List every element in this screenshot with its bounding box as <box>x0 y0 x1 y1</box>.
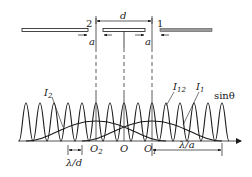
a-dimension-left: a <box>78 35 112 47</box>
O2-label: O2 <box>90 143 103 156</box>
lambda-over-a-dimension: λ/a <box>152 139 222 156</box>
center-screen-slab <box>103 29 145 32</box>
I12-label: I12 <box>172 81 186 94</box>
slit-2-label: 2 <box>86 18 92 29</box>
I2-label: I2 <box>43 87 53 100</box>
slit-screen <box>22 29 212 49</box>
lambda-over-d-label: λ/d <box>65 157 82 168</box>
right-screen-slab <box>160 29 212 32</box>
d-label: d <box>120 10 126 21</box>
lambda-over-d-dimension: λ/d <box>65 145 82 168</box>
I1-label: I1 <box>195 81 204 94</box>
slit-1-label: 1 <box>157 18 163 29</box>
left-screen-slab <box>22 29 88 32</box>
a-label-right: a <box>145 36 151 47</box>
lambda-over-a-label: λ/a <box>178 139 195 150</box>
a-label-left: a <box>89 36 95 47</box>
O-label: O <box>120 143 128 154</box>
d-dimension: d <box>96 10 152 24</box>
O1-label: O1 <box>144 143 157 156</box>
sin-theta-label: sinθ <box>214 90 235 101</box>
double-slit-diagram: 2 1 d a a <box>0 0 252 177</box>
